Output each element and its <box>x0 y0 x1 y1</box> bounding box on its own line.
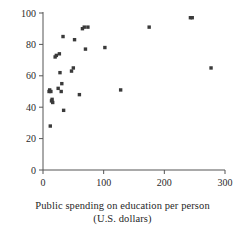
data-point <box>61 35 64 38</box>
data-point <box>73 38 76 41</box>
data-point <box>103 46 106 49</box>
data-point <box>119 88 122 91</box>
x-tick-label: 200 <box>157 177 172 188</box>
data-points <box>47 16 212 128</box>
x-axis-caption-line2: (U.S. dollars) <box>0 212 245 225</box>
x-tick-label: 0 <box>41 177 46 188</box>
data-point <box>72 66 75 69</box>
data-point <box>83 25 86 28</box>
data-point <box>86 25 89 28</box>
data-point <box>58 71 61 74</box>
data-point <box>78 93 81 96</box>
data-point <box>62 109 65 112</box>
data-point <box>84 47 87 50</box>
y-axis: 020406080100 <box>21 8 43 176</box>
data-point <box>56 87 59 90</box>
data-point <box>70 69 73 72</box>
data-point <box>50 98 53 101</box>
y-tick-label: 80 <box>26 39 36 50</box>
data-point <box>49 124 52 127</box>
data-point <box>209 66 212 69</box>
data-point <box>51 101 54 104</box>
data-point <box>55 54 58 57</box>
x-axis: 0100200300 <box>41 170 233 188</box>
y-tick-label: 20 <box>26 133 36 144</box>
data-point <box>49 90 52 93</box>
x-tick-label: 100 <box>96 177 111 188</box>
y-tick-label: 60 <box>26 70 36 81</box>
data-point <box>58 52 61 55</box>
data-point <box>191 16 194 19</box>
y-tick-label: 40 <box>26 102 36 113</box>
y-tick-label: 0 <box>31 165 36 176</box>
data-point <box>147 25 150 28</box>
x-axis-caption-line1: Public spending on education per person <box>0 199 245 212</box>
x-tick-label: 300 <box>218 177 233 188</box>
data-point <box>60 90 63 93</box>
data-point <box>60 82 63 85</box>
y-tick-label: 100 <box>21 8 36 19</box>
